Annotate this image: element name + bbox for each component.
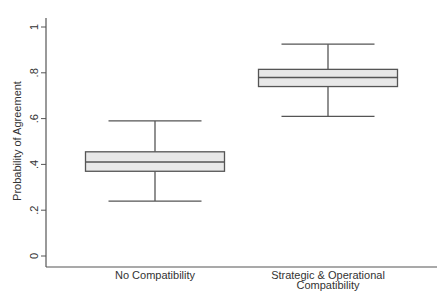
- box-plot-item: [86, 121, 225, 201]
- y-tick-label: .2: [28, 206, 40, 215]
- y-tick-label: .4: [28, 160, 40, 169]
- box-plot-item: [259, 44, 398, 116]
- y-tick-label: 1: [28, 24, 40, 30]
- y-axis-title: Probability of Agreement: [11, 81, 23, 201]
- y-axis-ticks: 0.2.4.6.81: [28, 24, 46, 259]
- box-plot-chart: 0.2.4.6.81 Probability of Agreement No C…: [0, 0, 448, 303]
- x-axis: No CompatibilityStrategic & OperationalC…: [46, 267, 437, 291]
- y-tick-label: .6: [28, 114, 40, 123]
- y-tick-label: .8: [28, 68, 40, 77]
- x-axis-category-labels: No CompatibilityStrategic & OperationalC…: [115, 269, 385, 291]
- y-tick-label: 0: [28, 253, 40, 259]
- x-category-label: No Compatibility: [115, 269, 196, 281]
- x-category-label: Compatibility: [297, 279, 360, 291]
- box-series: [86, 44, 398, 201]
- y-axis: 0.2.4.6.81 Probability of Agreement: [11, 18, 46, 267]
